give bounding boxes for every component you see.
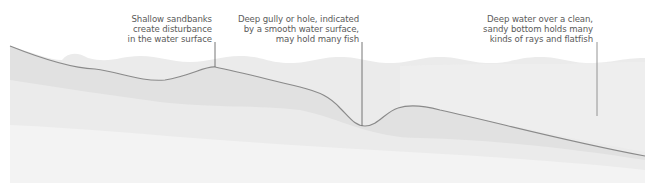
callout-deep-gully-line-1: Deep gully or hole, indicated — [238, 14, 359, 24]
callout-deep-water-line-2: sandy bottom holds many — [483, 24, 593, 34]
callout-deep-gully-line-3: may hold many fish — [238, 34, 359, 44]
callout-shallow-sandbanks-line-1: Shallow sandbanks — [128, 14, 212, 24]
callout-deep-gully: Deep gully or hole, indicated by a smoot… — [238, 14, 359, 44]
callout-shallow-sandbanks: Shallow sandbanks create disturbance in … — [128, 14, 212, 44]
callout-shallow-sandbanks-line-2: create disturbance — [128, 24, 212, 34]
callout-shallow-sandbanks-line-3: in the water surface — [128, 34, 212, 44]
callout-deep-gully-line-2: by a smooth water surface, — [238, 24, 359, 34]
callout-deep-water-line-3: kinds of rays and flatfish — [483, 34, 593, 44]
callout-deep-water: Deep water over a clean, sandy bottom ho… — [483, 14, 593, 44]
callout-deep-water-line-1: Deep water over a clean, — [483, 14, 593, 24]
